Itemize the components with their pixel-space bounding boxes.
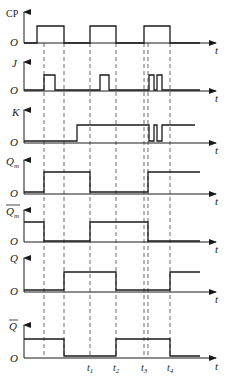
- time-axis-label: t: [215, 92, 219, 104]
- signal-q: [24, 258, 216, 292]
- label-q: Q: [10, 252, 18, 264]
- label-qm-bar: Qm: [6, 205, 19, 220]
- signal-qm-bar: [24, 210, 216, 242]
- time-axis-label: t: [215, 44, 219, 56]
- time-axis-label: t: [215, 360, 219, 372]
- label-q-bar: Q: [9, 320, 17, 332]
- marker-t3: t3: [141, 362, 148, 375]
- marker-t4: t4: [167, 362, 174, 375]
- origin-label: O: [10, 235, 18, 247]
- marker-t2: t2: [113, 362, 120, 375]
- time-axis-label: t: [215, 293, 219, 305]
- marker-t1: t1: [87, 362, 93, 375]
- label-cp: CP: [6, 8, 19, 19]
- signal-j: [24, 62, 216, 91]
- label-qm: Qm: [6, 155, 19, 170]
- label-j: J: [12, 57, 18, 69]
- label-k: K: [11, 106, 20, 118]
- origin-label: O: [10, 84, 18, 96]
- origin-label: O: [10, 285, 18, 297]
- time-axis-label: t: [215, 243, 219, 255]
- time-axis-label: t: [215, 195, 219, 207]
- timing-diagram: CP O t J O t K O t Qm O t Qm O t Q O t Q…: [0, 0, 228, 380]
- signal-qm: [24, 160, 216, 194]
- time-axis-label: t: [215, 144, 219, 156]
- signal-q-bar: [24, 325, 216, 358]
- signal-cp: [24, 12, 216, 43]
- origin-label: O: [10, 136, 18, 148]
- origin-label: O: [10, 352, 18, 364]
- origin-label: O: [10, 36, 18, 48]
- origin-label: O: [10, 187, 18, 199]
- signal-k: [24, 110, 216, 143]
